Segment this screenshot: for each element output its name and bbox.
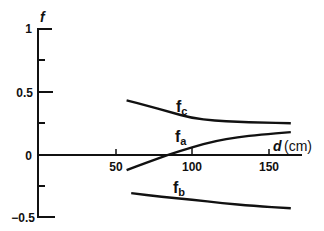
x-tick-label-100: 100	[182, 160, 202, 174]
y-tick-label-0: 0	[25, 149, 32, 163]
x-axis-title-unit: (cm)	[284, 138, 312, 154]
series-fc-line	[127, 100, 291, 123]
y-tick-label-1: 1	[25, 22, 32, 36]
y-axis-title: f	[40, 9, 46, 25]
chart: 1 0.5 0 −0.5 50 100 150 f d (cm) fc fa f…	[0, 0, 324, 231]
series-label-fc: fc	[176, 98, 187, 117]
x-tick-label-150: 150	[259, 160, 279, 174]
series-label-fa: fa	[175, 128, 187, 147]
y-tick-label-m05: −0.5	[11, 211, 35, 225]
y-tick-label-05: 0.5	[16, 86, 33, 100]
series-fb-line	[131, 193, 291, 208]
series-label-fb: fb	[173, 179, 185, 198]
x-tick-label-50: 50	[109, 160, 123, 174]
x-axis-title-var: d	[273, 138, 282, 154]
